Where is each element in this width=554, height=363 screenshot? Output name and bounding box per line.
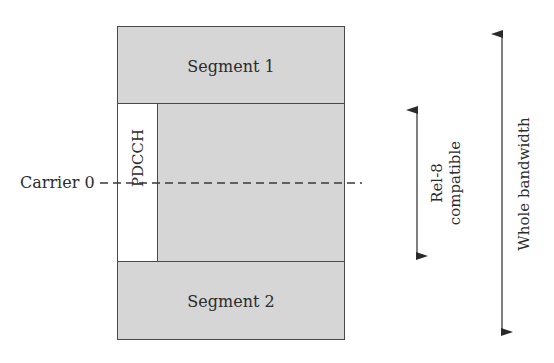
whole-bandwidth-label: Whole bandwidth [515,117,533,250]
rel8-label-line2: compatible [446,141,464,225]
diagram-lines [0,0,554,363]
rel8-label-line1: Rel-8 [428,141,446,225]
rel8-label: Rel-8 compatible [428,141,464,225]
